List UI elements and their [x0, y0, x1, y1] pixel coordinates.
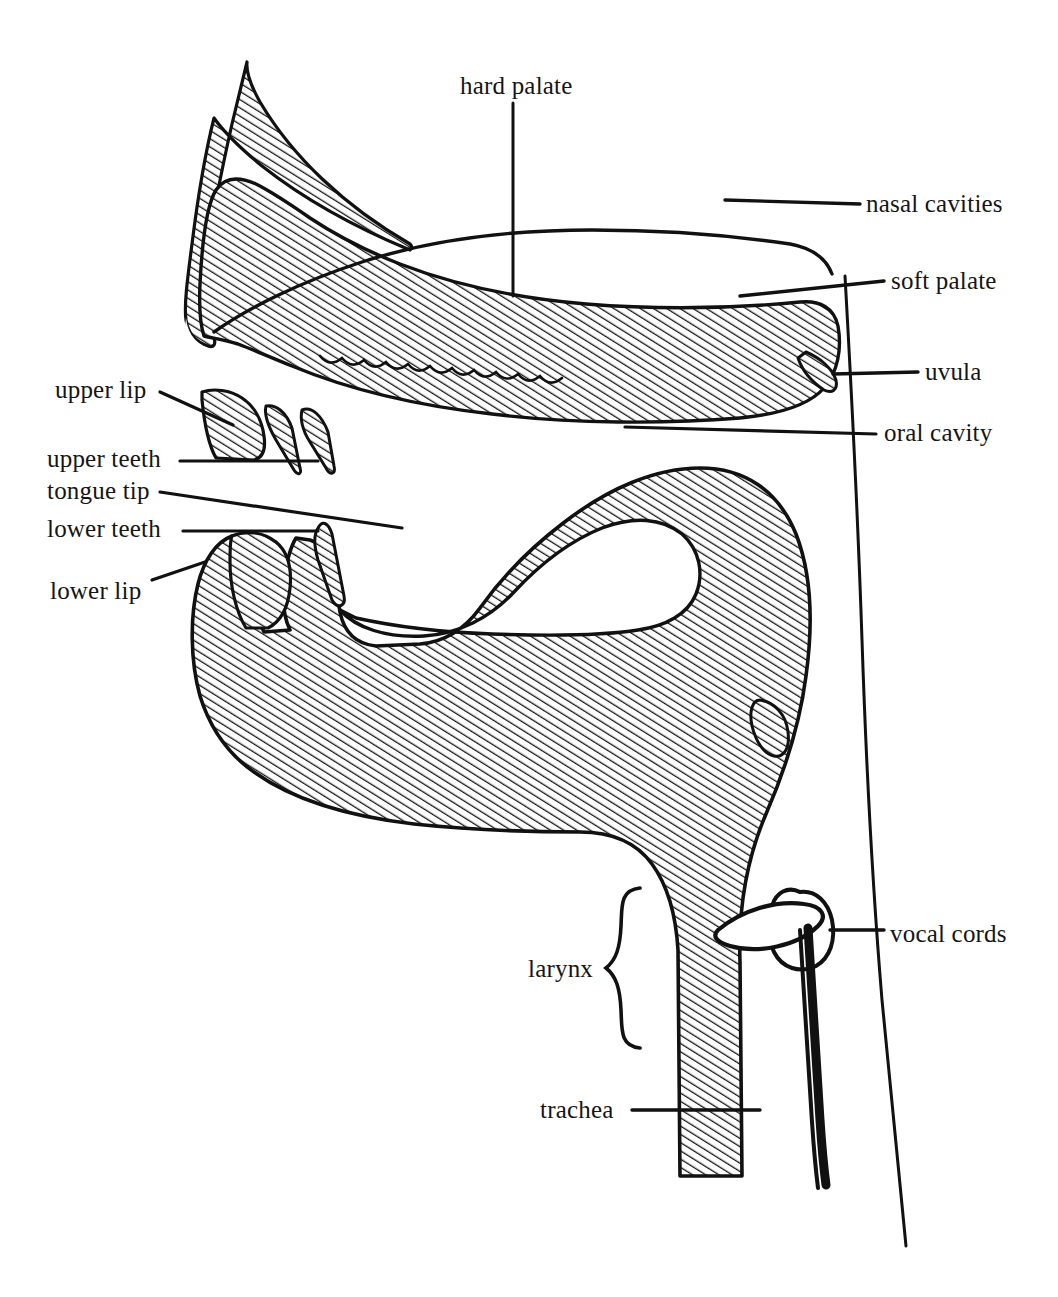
- label-soft-palate: soft palate: [891, 267, 997, 295]
- label-uvula: uvula: [925, 358, 982, 386]
- larynx-brace: [606, 888, 640, 1048]
- leader-nasal-cavities: [725, 200, 860, 204]
- label-larynx: larynx: [528, 955, 593, 983]
- label-vocal-cords: vocal cords: [890, 920, 1007, 948]
- upper-teeth-second: [301, 409, 334, 473]
- upper-teeth: [265, 406, 300, 474]
- leader-lower-lip: [152, 562, 205, 580]
- label-oral-cavity: oral cavity: [884, 419, 992, 447]
- leader-tongue-tip: [160, 492, 402, 528]
- label-tongue-tip: tongue tip: [47, 477, 150, 505]
- label-lower-lip: lower lip: [50, 577, 141, 605]
- label-upper-lip: upper lip: [55, 376, 146, 404]
- label-upper-teeth: upper teeth: [47, 445, 161, 473]
- tongue-jaw-pharynx-mass: [192, 468, 810, 1176]
- lower-lip: [230, 533, 290, 628]
- label-nasal-cavities: nasal cavities: [866, 190, 1003, 218]
- leader-uvula: [833, 372, 918, 374]
- label-trachea: trachea: [540, 1096, 614, 1124]
- label-hard-palate: hard palate: [460, 72, 573, 100]
- vocal-tract-figure: hard palate nasal cavities soft palate u…: [0, 0, 1058, 1297]
- label-lower-teeth: lower teeth: [47, 515, 161, 543]
- leader-oral-cavity: [625, 427, 876, 434]
